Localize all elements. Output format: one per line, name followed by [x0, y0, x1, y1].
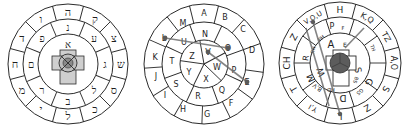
latin-letter: D	[249, 46, 255, 55]
latin-letter: K	[152, 53, 158, 62]
hebrew-letter: ל	[91, 85, 97, 96]
mixed-label: P	[330, 22, 335, 31]
latin-letter: I	[164, 91, 166, 100]
mixed-label: R	[301, 54, 311, 61]
mixed-label: GS	[355, 87, 364, 96]
latin-letter: C	[240, 25, 246, 34]
hebrew-letter: ש	[117, 58, 125, 71]
mixed-label: D	[339, 93, 346, 103]
mixed-cipher-wheel: H K,Q TZ A,O S Z L Y,I T CH Z V,O,U P F …	[279, 2, 401, 124]
mixed-label: BS	[352, 76, 360, 84]
latin-letter: T	[169, 57, 175, 66]
hebrew-letter: י	[40, 103, 43, 116]
mixed-label: Z	[362, 102, 372, 114]
latin-cipher-wheel: A B C D E F G H I J K L M N O P Q R S T …	[144, 4, 264, 124]
latin-letter: N	[202, 30, 208, 39]
mixed-label: A	[328, 39, 335, 50]
latin-letter: M	[180, 19, 187, 28]
mixed-label: CH	[282, 56, 292, 69]
mixed-label: T	[288, 84, 300, 95]
mixed-label: A,O	[389, 56, 398, 70]
latin-letter: Y	[186, 68, 192, 77]
hebrew-letter: ק	[92, 13, 98, 26]
mixed-label: K,Q	[359, 11, 376, 26]
hebrew-letter: א	[65, 39, 71, 50]
center-cross-emblem	[52, 50, 84, 84]
latin-letter: S	[173, 80, 178, 89]
latin-letter: B	[222, 13, 228, 22]
hebrew-letter: נ	[66, 22, 69, 33]
latin-letter: Q	[219, 86, 225, 95]
mixed-label: F	[342, 25, 345, 31]
connection-l-o	[165, 38, 228, 48]
mixed-label: Z	[288, 32, 300, 42]
latin-letter: R	[195, 92, 201, 101]
latin-letter: F	[229, 99, 234, 108]
connection-kq-e	[345, 28, 364, 48]
mixed-label: TH	[369, 43, 377, 53]
latin-letter: W	[213, 63, 221, 72]
hebrew-letter: ג	[103, 59, 106, 70]
mixed-label: G	[363, 77, 375, 88]
hebrew-letter: ה	[65, 6, 71, 19]
hebrew-letter: ר	[40, 85, 45, 96]
hebrew-letter: ם	[28, 59, 34, 70]
latin-letter: X	[203, 75, 209, 84]
hebrew-letter: צ	[111, 32, 117, 45]
mixed-label: M	[305, 72, 317, 83]
latin-letter: H	[180, 105, 186, 114]
hebrew-letter: פ	[39, 33, 44, 44]
hebrew-letter: ס	[111, 84, 117, 97]
latin-letter: A	[201, 9, 207, 18]
hebrew-letter: ב	[66, 96, 71, 107]
hebrew-letter: ע	[91, 33, 97, 44]
hebrew-letter: ד	[19, 32, 24, 45]
mixed-label: S	[380, 84, 392, 94]
hebrew-letter: כ	[92, 103, 97, 116]
latin-letter: G	[204, 110, 210, 119]
hebrew-letter: מ	[19, 84, 26, 97]
hebrew-cipher-wheel: ה ק צ ש ס כ ל י מ ח ד ו נ ע ג ל ב ר ם פ …	[8, 4, 128, 124]
hebrew-letter: ו	[40, 13, 43, 26]
mixed-label: H	[337, 5, 344, 15]
mixed-label: Y,I	[307, 102, 319, 114]
cipher-wheels-figure: ה ק צ ש ס כ ל י מ ח ד ו נ ע ג ל ב ר ם פ …	[0, 0, 408, 129]
hebrew-letter: ל	[64, 110, 70, 123]
hebrew-letter: ח	[12, 58, 19, 71]
latin-letter: J	[154, 72, 157, 81]
latin-letter: Z	[189, 52, 195, 61]
